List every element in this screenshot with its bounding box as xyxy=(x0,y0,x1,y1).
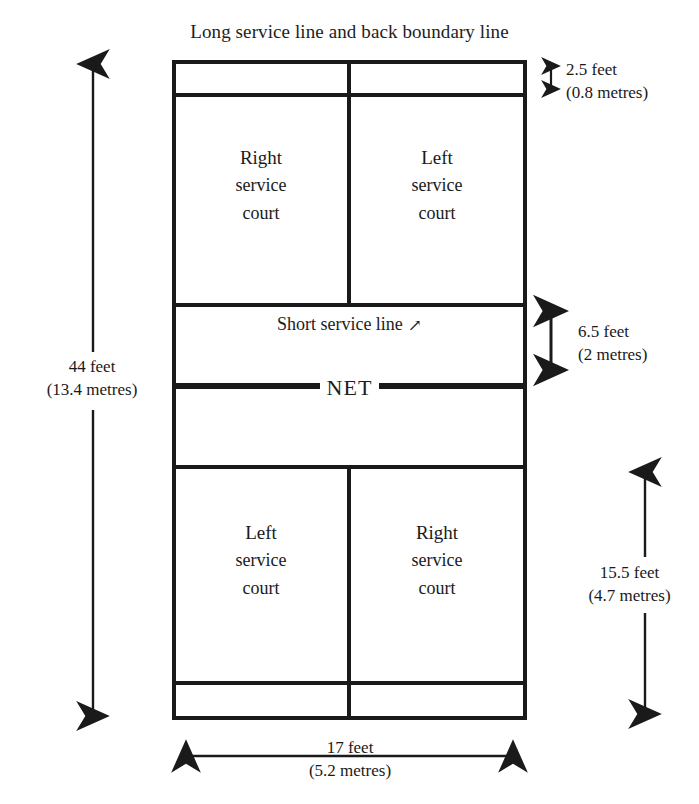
court-label-line1: Left xyxy=(180,518,342,547)
dimension-back-alley: 2.5 feet (0.8 metres) xyxy=(566,58,696,104)
court-label-line3: court xyxy=(180,575,342,603)
court-label-line1: Right xyxy=(356,518,518,547)
court-label-line1: Right xyxy=(180,143,342,172)
arrow-up-right-icon: ↗ xyxy=(403,315,422,337)
court-label-line3: court xyxy=(356,200,518,228)
net-label: NET xyxy=(172,374,527,402)
dimension-feet-text: 17 feet xyxy=(323,736,378,759)
dimension-metres: (13.4 metres) xyxy=(12,378,172,401)
dimension-metres: (2 metres) xyxy=(578,343,698,366)
dimension-feet: 15.5 feet xyxy=(560,561,699,584)
label-right-service-court-top: Right service court xyxy=(180,143,342,228)
dimension-service-zone: 6.5 feet (2 metres) xyxy=(578,320,698,366)
court-label-line2: service xyxy=(356,547,518,575)
dimension-metres-text: (5.2 metres) xyxy=(305,759,395,782)
short-service-line-annotation: Short service line↗ xyxy=(172,313,527,336)
court-label-line2: service xyxy=(356,172,518,200)
dimension-court-width: 17 feet (5.2 metres) xyxy=(255,736,445,782)
court-label-line1: Left xyxy=(356,143,518,172)
dimension-metres: (5.2 metres) xyxy=(255,759,445,782)
label-left-service-court-top: Left service court xyxy=(356,143,518,228)
dimension-feet: 17 feet xyxy=(255,736,445,759)
dimension-feet: 6.5 feet xyxy=(578,320,698,343)
dimension-feet: 2.5 feet xyxy=(566,58,696,81)
diagram-title: Long service line and back boundary line xyxy=(0,20,699,44)
centre-line-bottom xyxy=(347,465,351,720)
court-label-line2: service xyxy=(180,547,342,575)
label-right-service-court-bottom: Right service court xyxy=(356,518,518,603)
badminton-court-diagram: Long service line and back boundary line… xyxy=(0,0,699,804)
label-left-service-court-bottom: Left service court xyxy=(180,518,342,603)
court-label-line2: service xyxy=(180,172,342,200)
dimension-feet: 44 feet xyxy=(12,355,172,378)
dimension-court-length: 44 feet (13.4 metres) xyxy=(12,355,172,401)
centre-line-top xyxy=(347,60,351,305)
dimension-half-court: 15.5 feet (4.7 metres) xyxy=(560,561,699,607)
court-label-line3: court xyxy=(356,575,518,603)
court-label-line3: court xyxy=(180,200,342,228)
dimension-metres: (0.8 metres) xyxy=(566,81,696,104)
short-service-line-label: Short service line xyxy=(277,314,403,334)
dimension-metres: (4.7 metres) xyxy=(560,584,699,607)
